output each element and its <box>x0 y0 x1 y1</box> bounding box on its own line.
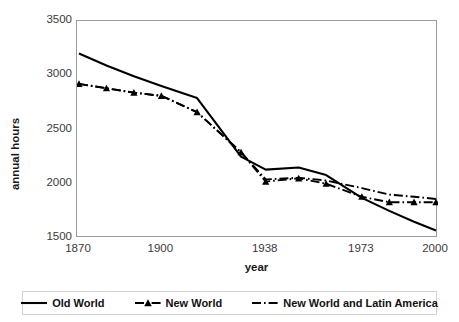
y-axis-tick-label: 3500 <box>28 14 72 26</box>
y-axis-title: annual hours <box>9 106 21 202</box>
series-line-new-world <box>79 84 436 202</box>
chart-figure: annual hours 35003000250020001500 187019… <box>0 0 459 322</box>
legend-item[interactable]: New World <box>135 297 223 309</box>
y-axis-tick-label: 3000 <box>28 68 72 80</box>
dashdot-line-swatch <box>252 297 278 309</box>
legend-item-label: New World <box>166 297 223 309</box>
plot-svg <box>77 21 438 238</box>
dashdot-triangle-swatch <box>135 297 161 309</box>
solid-line-swatch <box>21 297 47 309</box>
x-axis-tick-label: 1973 <box>348 243 374 255</box>
y-axis-tick-label: 1500 <box>28 231 72 243</box>
x-axis-tick-label: 1938 <box>252 243 278 255</box>
y-axis-tick-label: 2000 <box>28 177 72 189</box>
series-marker-triangle <box>158 92 165 99</box>
legend-item-label: New World and Latin America <box>283 297 438 309</box>
series-line-new-world-and-latin-america <box>79 84 436 199</box>
y-axis-tick-label: 2500 <box>28 123 72 135</box>
x-axis-tick-label: 2000 <box>422 243 448 255</box>
series-line-old-world <box>79 54 436 231</box>
chart-legend: Old WorldNew WorldNew World and Latin Am… <box>22 291 437 315</box>
x-axis-tick-label: 1900 <box>148 243 174 255</box>
legend-item[interactable]: Old World <box>21 297 104 309</box>
legend-item[interactable]: New World and Latin America <box>252 297 438 309</box>
x-axis-tick-label: 1870 <box>65 243 91 255</box>
legend-marker-triangle <box>144 299 152 306</box>
x-axis-title: year <box>76 261 437 273</box>
legend-item-label: Old World <box>52 297 104 309</box>
plot-area <box>76 20 437 237</box>
x-axis-tick-labels: 18701900193819732000 <box>76 243 437 259</box>
y-axis-tick-labels: 35003000250020001500 <box>26 0 72 322</box>
